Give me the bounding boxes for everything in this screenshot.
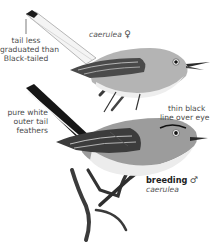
plumage-label: breeding: [146, 175, 187, 185]
species-name: caerulea: [89, 30, 122, 39]
male-symbol-icon: ♂: [190, 175, 198, 185]
female-label: caerulea ♀: [89, 30, 131, 39]
tail-annotation: tail less graduated than Black-tailed: [0, 36, 52, 63]
male-label: breeding ♂ caerulea: [146, 176, 198, 194]
outer-tail-annotation: pure white outer tail feathers: [6, 108, 48, 135]
species-name: caerulea: [146, 185, 198, 194]
eye-line-annotation: thin black line over eye: [160, 104, 209, 122]
branch: [72, 170, 89, 240]
female-symbol-icon: ♀: [124, 29, 131, 39]
